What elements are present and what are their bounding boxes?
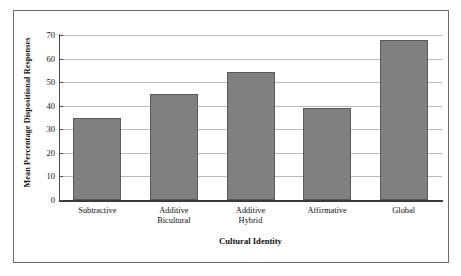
bar — [150, 94, 198, 200]
y-tick-mark — [59, 153, 63, 154]
x-tick-label-line: Global — [365, 206, 442, 216]
y-tick-label: 50 — [33, 78, 55, 87]
y-tick-label: 20 — [33, 149, 55, 158]
x-tick-label: AdditiveBicultural — [136, 206, 213, 226]
y-tick-mark — [59, 200, 63, 201]
bar — [380, 40, 428, 200]
y-tick-label: 60 — [33, 55, 55, 64]
x-axis-title: Cultural Identity — [59, 236, 442, 246]
x-tick-label-line: Hybrid — [212, 216, 289, 226]
y-tick-mark — [59, 59, 63, 60]
x-tick-label: AdditiveHybrid — [212, 206, 289, 226]
x-tick-label: Global — [365, 206, 442, 216]
y-axis-tick-labels: 706050403020100 — [31, 35, 55, 200]
y-tick-mark — [59, 176, 63, 177]
y-tick-label: 40 — [33, 102, 55, 111]
bar — [303, 108, 351, 200]
x-tick-label: Affirmative — [289, 206, 366, 216]
y-tick-mark — [59, 35, 63, 36]
x-tick-label-line: Bicultural — [136, 216, 213, 226]
x-tick-label: Subtractive — [59, 206, 136, 216]
bar — [73, 118, 121, 201]
gridline — [59, 35, 442, 36]
bar — [227, 72, 275, 200]
x-axis-line — [59, 200, 443, 202]
y-tick-label: 30 — [33, 125, 55, 134]
x-tick-label-line: Additive — [212, 206, 289, 216]
y-tick-label: 10 — [33, 172, 55, 181]
y-tick-mark — [59, 129, 63, 130]
y-tick-label: 70 — [33, 31, 55, 40]
x-tick-label-line: Additive — [136, 206, 213, 216]
x-tick-label-line: Subtractive — [59, 206, 136, 216]
y-tick-label: 0 — [33, 196, 55, 205]
y-tick-mark — [59, 106, 63, 107]
x-tick-label-line: Affirmative — [289, 206, 366, 216]
figure-canvas: Mean Percentage Dispositional Responses … — [0, 0, 461, 276]
y-tick-mark — [59, 82, 63, 83]
plot-area — [59, 35, 442, 200]
